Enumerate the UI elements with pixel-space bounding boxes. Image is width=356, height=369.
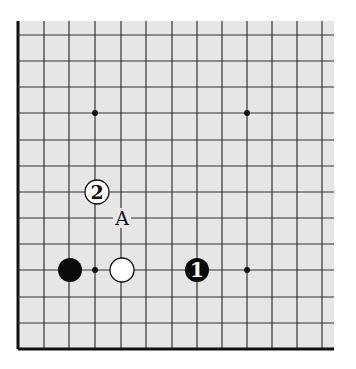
star-point [92,110,98,116]
position-mark-label: A [114,207,129,229]
white-stone [110,258,134,282]
star-point [244,110,250,116]
star-point [244,267,250,273]
move-number-label: 1 [190,258,204,282]
black-stone [58,258,82,282]
go-board-diagram: A 12 [0,0,356,369]
move-number-label: 2 [90,181,103,203]
board-background [18,21,334,349]
star-point [92,267,98,273]
board-marks: A [113,207,131,229]
